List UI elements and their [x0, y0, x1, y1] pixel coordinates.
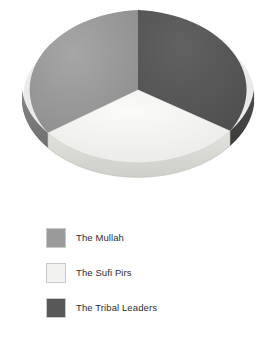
- pie-chart-figure: The Mullah The Sufi Pirs The Tribal Lead…: [0, 0, 272, 337]
- legend-swatch-the-sufi-pirs: [46, 263, 66, 283]
- legend-swatch-the-tribal-leaders: [46, 298, 66, 318]
- legend-item-the-mullah: The Mullah: [46, 227, 124, 248]
- pie-chart-graphic: [0, 0, 272, 200]
- legend-swatch-the-mullah: [46, 228, 66, 248]
- legend-label-the-sufi-pirs: The Sufi Pirs: [76, 267, 132, 279]
- legend-item-the-sufi-pirs: The Sufi Pirs: [46, 262, 132, 283]
- legend-label-the-mullah: The Mullah: [76, 232, 124, 244]
- chart-legend: The Mullah The Sufi Pirs The Tribal Lead…: [0, 214, 272, 334]
- pie-chart-plot-area: [0, 0, 272, 200]
- legend-label-the-tribal-leaders: The Tribal Leaders: [76, 302, 157, 314]
- legend-item-the-tribal-leaders: The Tribal Leaders: [46, 297, 157, 318]
